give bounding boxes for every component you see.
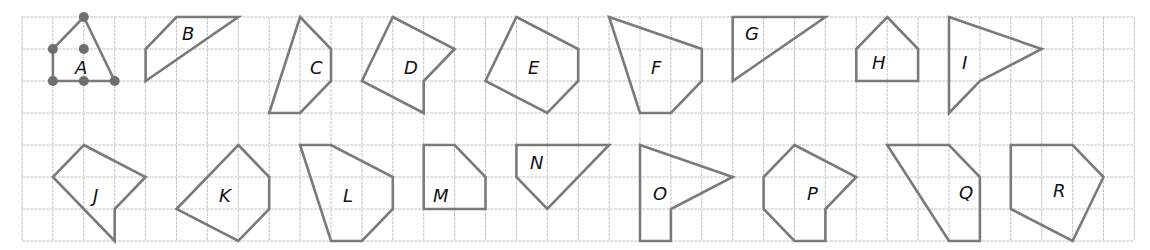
shape-label-b: B	[182, 23, 194, 44]
vertex-dot	[79, 12, 89, 22]
shape-label-c: C	[310, 57, 323, 78]
shape-label-r: R	[1053, 180, 1066, 201]
shape-label-e: E	[528, 57, 540, 78]
vertex-dot	[110, 76, 120, 86]
polygon-grid-diagram: ABCDEFGHIJKLMNOPQR	[0, 0, 1150, 250]
shape-labels: ABCDEFGHIJKLMNOPQR	[74, 23, 1066, 206]
shape-label-m: M	[433, 185, 449, 206]
vertex-dot	[79, 44, 89, 54]
shape-label-k: K	[219, 185, 232, 206]
shape-label-p: P	[807, 183, 818, 204]
shape-label-i: I	[962, 52, 967, 73]
shape-label-h: H	[872, 52, 886, 73]
shape-label-a: A	[74, 57, 87, 78]
shape-label-l: L	[343, 185, 353, 206]
shape-label-f: F	[651, 57, 662, 78]
shape-label-j: J	[90, 185, 98, 206]
shape-label-d: D	[404, 57, 418, 78]
shape-label-n: N	[530, 152, 543, 173]
shape-label-o: O	[653, 183, 667, 204]
polygon-j	[53, 145, 146, 241]
shape-label-q: Q	[959, 182, 973, 203]
vertex-dot	[48, 76, 58, 86]
vertex-dot	[48, 44, 58, 54]
shape-label-g: G	[745, 23, 759, 44]
